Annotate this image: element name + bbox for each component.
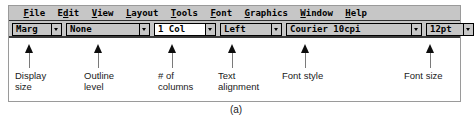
text-alignment-value: Left [220, 23, 271, 36]
menu-item-tools[interactable]: Tools [167, 6, 202, 20]
menu-item-font-rest: ont [216, 8, 232, 18]
callout-label-font-size: Font size [404, 70, 443, 81]
menu-item-window[interactable]: Window [296, 6, 337, 20]
figure-caption: (a) [0, 104, 472, 115]
property-bar: Marg None 1 Col Left Courier 10cpi 12pt [9, 21, 460, 38]
menu-item-file[interactable]: File [19, 6, 49, 20]
menu-item-font[interactable]: Font [206, 6, 236, 20]
menu-item-tools-rest: ools [176, 8, 198, 18]
chevron-down-icon[interactable] [205, 23, 216, 36]
callout-arrow-text-alignment [228, 44, 237, 68]
column-count-value: 1 Col [154, 23, 205, 36]
font-size-value: 12pt [426, 23, 463, 36]
callout-arrow-font-style [301, 44, 310, 68]
chevron-down-icon[interactable] [271, 23, 282, 36]
display-size-value: Marg [12, 23, 51, 36]
outline-level-value: None [66, 23, 139, 36]
font-style-dropdown[interactable]: Courier 10cpi [286, 23, 422, 36]
column-count-dropdown[interactable]: 1 Col [154, 23, 216, 36]
font-size-dropdown[interactable]: 12pt [426, 23, 474, 36]
menu-item-help-rest: elp [351, 8, 367, 18]
menu-item-view[interactable]: View [88, 6, 118, 20]
callout-label-font-style: Font style [282, 70, 323, 81]
menu-item-help[interactable]: Help [341, 6, 371, 20]
menu-item-edit[interactable]: Edit [54, 6, 84, 20]
menu-item-window-rest: indow [306, 8, 333, 18]
display-size-dropdown[interactable]: Marg [12, 23, 62, 36]
menu-item-file-rest: ile [29, 8, 45, 18]
callout-arrow-font-size [426, 44, 435, 68]
chevron-down-icon[interactable] [51, 23, 62, 36]
callout-label-column-count: # of columns [158, 70, 193, 92]
menu-item-edit-rest: it [68, 8, 79, 18]
menu-item-graphics-rest: raphics [250, 8, 288, 18]
text-alignment-dropdown[interactable]: Left [220, 23, 282, 36]
callout-arrow-outline-level [94, 44, 103, 68]
callout-label-outline-level: Outline level [84, 70, 114, 92]
menu-item-view-rest: iew [97, 8, 113, 18]
menu-item-layout-rest: ayout [131, 8, 158, 18]
font-style-value: Courier 10cpi [286, 23, 411, 36]
callout-label-text-alignment: Text alignment [218, 70, 259, 92]
chevron-down-icon[interactable] [463, 23, 474, 36]
outline-level-dropdown[interactable]: None [66, 23, 150, 36]
chevron-down-icon[interactable] [411, 23, 422, 36]
callout-arrow-column-count [168, 44, 177, 68]
chevron-down-icon[interactable] [139, 23, 150, 36]
menu-item-graphics[interactable]: Graphics [241, 6, 292, 20]
callout-label-display-size: Display size [15, 70, 46, 92]
callout-arrow-display-size [25, 44, 34, 68]
menu-item-layout[interactable]: Layout [122, 6, 163, 20]
menu-bar: File Edit View Layout Tools Font Graphic… [9, 6, 460, 21]
